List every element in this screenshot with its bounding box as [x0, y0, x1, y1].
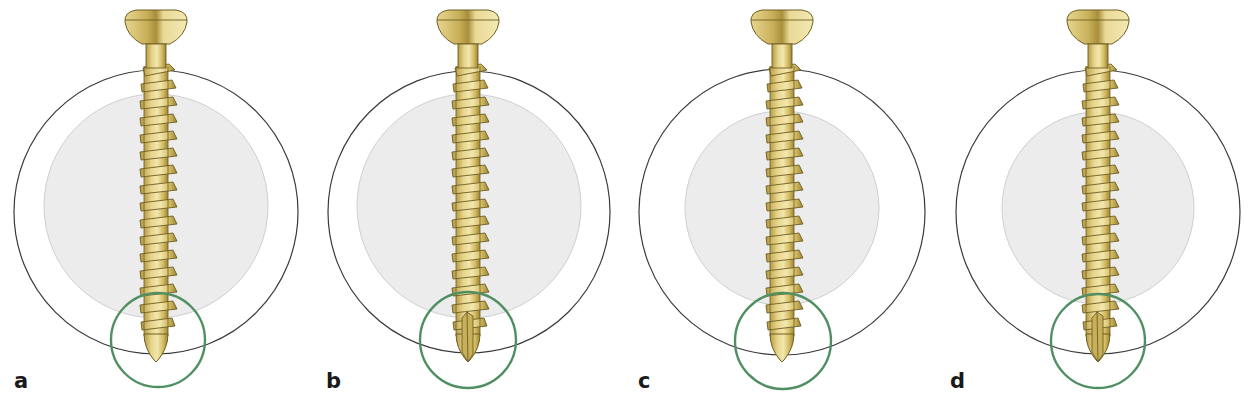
screw-diagram-fluted-tip [312, 0, 624, 402]
screw-diagram-standard-tip [624, 0, 936, 402]
panel-c: c [624, 0, 936, 402]
panel-label: a [14, 371, 28, 392]
panel-label: b [326, 371, 341, 392]
panel-label: c [638, 371, 650, 392]
panel-a: a [0, 0, 312, 402]
panel-d: d [936, 0, 1248, 402]
screw-diagram-standard-tip [0, 0, 312, 402]
panel-b: b [312, 0, 624, 402]
panel-label: d [950, 371, 965, 392]
screw-diagram-fluted-tip [936, 0, 1248, 402]
